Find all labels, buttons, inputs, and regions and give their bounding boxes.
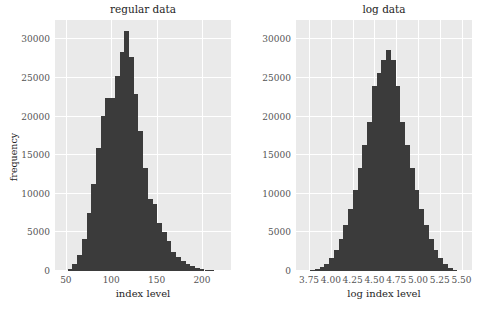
histogram-bars-log bbox=[296, 20, 472, 271]
axes-regular-data: regular data 050001000015000200002500030… bbox=[55, 20, 231, 271]
x-axis-label-regular: index level bbox=[55, 288, 231, 299]
x-tick-label: 100 bbox=[103, 275, 120, 285]
y-tick-label: 15000 bbox=[262, 150, 291, 160]
x-tick-label: 50 bbox=[60, 275, 71, 285]
x-tick-label: 3.75 bbox=[299, 275, 319, 285]
x-tick-label: 5.50 bbox=[452, 275, 472, 285]
y-tick-label: 25000 bbox=[262, 73, 291, 83]
y-tick-label: 20000 bbox=[262, 112, 291, 122]
y-tick-label: 25000 bbox=[21, 73, 50, 83]
x-tick-label: 4.25 bbox=[343, 275, 363, 285]
x-tick-label: 5.25 bbox=[430, 275, 450, 285]
chart-title-regular: regular data bbox=[55, 3, 231, 15]
chart-title-log: log data bbox=[296, 3, 472, 15]
histogram-bars-regular bbox=[55, 20, 231, 271]
x-tick-label: 4.50 bbox=[364, 275, 384, 285]
x-tick-label: 200 bbox=[193, 275, 210, 285]
x-axis-label-log: log index level bbox=[296, 288, 472, 299]
y-tick-label: 30000 bbox=[21, 34, 50, 44]
x-tick-label: 150 bbox=[148, 275, 165, 285]
axes-log-data: log data 050001000015000200002500030000 … bbox=[296, 20, 472, 271]
histogram-bar bbox=[453, 270, 458, 271]
y-tick-label: 5000 bbox=[268, 227, 291, 237]
y-tick-label: 15000 bbox=[21, 150, 50, 160]
y-tick-label: 5000 bbox=[27, 227, 50, 237]
y-tick-label: 0 bbox=[44, 266, 50, 276]
y-axis-label-regular: frequency bbox=[8, 108, 19, 156]
y-tick-label: 20000 bbox=[21, 112, 50, 122]
x-tick-label: 4.00 bbox=[321, 275, 341, 285]
y-tick-label: 10000 bbox=[21, 189, 50, 199]
x-tick-label: 4.75 bbox=[386, 275, 406, 285]
y-tick-label: 30000 bbox=[262, 34, 291, 44]
figure: regular data 050001000015000200002500030… bbox=[0, 0, 482, 313]
y-axis-label-regular-text: frequency bbox=[8, 132, 19, 180]
y-tick-label: 10000 bbox=[262, 189, 291, 199]
x-tick-label: 5.00 bbox=[408, 275, 428, 285]
y-tick-label: 0 bbox=[285, 266, 291, 276]
